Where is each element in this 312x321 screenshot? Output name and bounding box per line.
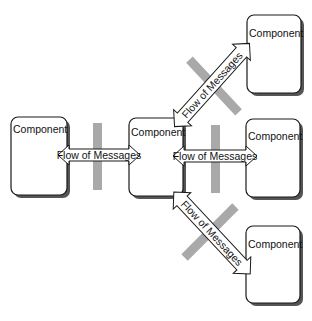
flow-arrow-center-bottom-right: Flow of Messages bbox=[165, 184, 259, 282]
flow-arrow-center-top-right: Flow of Messages bbox=[166, 35, 259, 134]
component-bottom-right: Component bbox=[246, 226, 303, 306]
component-top-right: Component bbox=[247, 15, 304, 96]
message-flow-diagram: Component Component Component Component … bbox=[0, 0, 312, 321]
component-label: Component bbox=[248, 238, 302, 250]
flow-label: Flow of Messages bbox=[57, 149, 142, 161]
component-label: Component bbox=[248, 130, 302, 142]
component-label: Component bbox=[249, 27, 303, 39]
flow-label: Flow of Messages bbox=[173, 150, 258, 162]
component-label: Component bbox=[131, 126, 185, 138]
component-label: Component bbox=[13, 123, 67, 135]
